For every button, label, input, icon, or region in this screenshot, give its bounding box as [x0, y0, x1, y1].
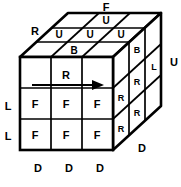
front-cell-label: F [32, 98, 39, 110]
top-cell-label: U [86, 29, 93, 40]
top-cell-label: B [70, 45, 77, 56]
right-cell-label: L [151, 62, 157, 72]
front-cell-label: F [94, 129, 101, 141]
label-D-3: D [96, 162, 104, 174]
label-D-right: D [138, 142, 146, 154]
top-cell-label: U [117, 29, 124, 40]
r-move-label: R [62, 69, 70, 81]
front-cell-label: F [94, 98, 101, 110]
rubiks-cube-diagram: F F F F F F U U U U B B R L R R R F R U … [0, 0, 181, 187]
right-cell-label: R [134, 108, 141, 118]
front-cell-label: F [63, 98, 70, 110]
right-cell-label: R [118, 93, 125, 103]
label-R-topleft: R [31, 25, 39, 37]
label-U-right: U [170, 56, 178, 68]
label-L-upper: L [5, 100, 12, 112]
label-D-2: D [65, 162, 73, 174]
right-cell-label: B [134, 45, 141, 55]
label-L-lower: L [5, 130, 12, 142]
right-cell-label: R [134, 77, 141, 87]
front-cell-label: F [63, 129, 70, 141]
right-cell-label-extra: R [118, 124, 125, 134]
top-cell-label: U [55, 29, 62, 40]
label-D-1: D [34, 162, 42, 174]
cube-diagram-container: F F F F F F U U U U B B R L R R R F R U … [0, 0, 181, 187]
label-F-top: F [103, 1, 110, 13]
top-cell-label: U [102, 15, 109, 26]
front-cell-label: F [32, 129, 39, 141]
